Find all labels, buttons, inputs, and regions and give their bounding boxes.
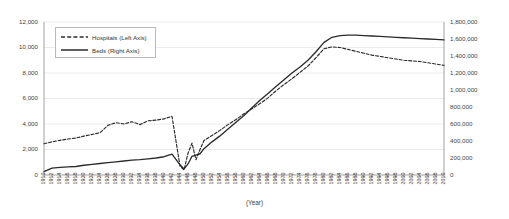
right-tick-400000: 400,000: [450, 138, 472, 144]
x-tick-1946: 1946: [185, 172, 190, 184]
x-tick-1920: 1920: [81, 172, 86, 184]
hospitals-beds-line-chart: 02,0004,0006,0008,00010,00012,000 0200,0…: [0, 0, 509, 219]
left-tick-4000: 4,000: [0, 121, 38, 127]
x-tick-2002: 2002: [409, 172, 414, 184]
left-tick-12000: 12,000: [0, 19, 38, 25]
left-tick-6000: 6,000: [0, 95, 38, 101]
x-tick-1964: 1964: [257, 172, 262, 184]
x-tick-1960: 1960: [241, 172, 246, 184]
legend-item-beds: Beds (Right Axis): [61, 44, 139, 56]
x-tick-1954: 1954: [217, 172, 222, 184]
x-tick-1928: 1928: [113, 172, 118, 184]
x-tick-1978: 1978: [313, 172, 318, 184]
x-tick-1936: 1936: [145, 172, 150, 184]
left-tick-0: 0: [0, 172, 38, 178]
x-tick-1914: 1914: [57, 172, 62, 184]
right-tick-200000: 200,000: [450, 155, 472, 161]
legend-label-beds: Beds (Right Axis): [92, 47, 139, 54]
left-tick-10000: 10,000: [0, 44, 38, 50]
x-tick-2008: 2008: [433, 172, 438, 184]
right-tick-1000000: 1,000,000: [450, 87, 478, 93]
x-tick-1912: 1912: [49, 172, 54, 184]
right-tick-1600000: 1,600,000: [450, 36, 478, 42]
x-tick-1976: 1976: [305, 172, 310, 184]
x-tick-1966: 1966: [265, 172, 270, 184]
x-tick-1990: 1990: [361, 172, 366, 184]
x-tick-1934: 1934: [137, 172, 142, 184]
legend-swatch-solid-icon: [61, 46, 88, 54]
x-tick-2004: 2004: [417, 172, 422, 184]
x-tick-1910: 1910: [41, 172, 46, 184]
right-tick-0: 0: [450, 172, 453, 178]
x-tick-2010: 2010: [441, 172, 446, 184]
right-tick-800000: 800,000: [450, 104, 472, 110]
x-tick-1918: 1918: [73, 172, 78, 184]
right-tick-1400000: 1,400,000: [450, 53, 478, 59]
x-tick-2000: 2000: [401, 172, 406, 184]
x-tick-1950: 1950: [201, 172, 206, 184]
x-tick-1958: 1958: [233, 172, 238, 184]
x-tick-1982: 1982: [329, 172, 334, 184]
legend-item-hospitals: Hospitals (Left Axis): [61, 31, 147, 43]
right-tick-1800000: 1,800,000: [450, 19, 478, 25]
x-tick-1972: 1972: [289, 172, 294, 184]
x-tick-1992: 1992: [369, 172, 374, 184]
x-tick-1952: 1952: [209, 172, 214, 184]
right-tick-600000: 600,000: [450, 121, 472, 127]
x-tick-1988: 1988: [353, 172, 358, 184]
x-tick-1984: 1984: [337, 172, 342, 184]
chart-legend: Hospitals (Left Axis) Beds (Right Axis): [55, 27, 156, 58]
x-tick-1986: 1986: [345, 172, 350, 184]
legend-label-hospitals: Hospitals (Left Axis): [92, 34, 147, 41]
x-tick-1916: 1916: [65, 172, 70, 184]
x-tick-1970: 1970: [281, 172, 286, 184]
x-tick-1930: 1930: [121, 172, 126, 184]
left-tick-2000: 2,000: [0, 146, 38, 152]
x-axis-title: (Year): [0, 199, 509, 206]
x-tick-1926: 1926: [105, 172, 110, 184]
legend-swatch-dashed-icon: [61, 33, 88, 41]
x-tick-1998: 1998: [393, 172, 398, 184]
x-tick-1924: 1924: [97, 172, 102, 184]
x-tick-1938: 1938: [153, 172, 158, 184]
x-tick-1996: 1996: [385, 172, 390, 184]
series-line-hospitals: [44, 47, 444, 170]
x-tick-1942: 1942: [169, 172, 174, 184]
x-tick-1948: 1948: [193, 172, 198, 184]
right-tick-1200000: 1,200,000: [450, 70, 478, 76]
x-tick-2006: 2006: [425, 172, 430, 184]
x-tick-1994: 1994: [377, 172, 382, 184]
x-tick-1944: 1944: [177, 172, 182, 184]
x-tick-1956: 1956: [225, 172, 230, 184]
x-tick-1974: 1974: [297, 172, 302, 184]
x-tick-1962: 1962: [249, 172, 254, 184]
x-tick-1968: 1968: [273, 172, 278, 184]
x-tick-1940: 1940: [161, 172, 166, 184]
left-tick-8000: 8,000: [0, 70, 38, 76]
x-tick-1922: 1922: [89, 172, 94, 184]
x-tick-1932: 1932: [129, 172, 134, 184]
x-tick-1980: 1980: [321, 172, 326, 184]
